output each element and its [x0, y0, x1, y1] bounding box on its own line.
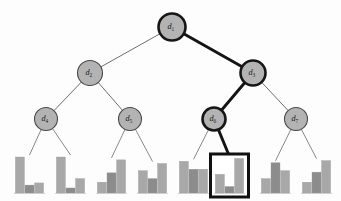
leaf-edge-d7-to-histogram-8 [301, 129, 316, 158]
histogram-5 [178, 161, 209, 193]
histogram-bar [107, 173, 116, 193]
histogram-bar [215, 174, 224, 193]
histogram-1 [14, 157, 45, 194]
node-circle-d1[interactable] [159, 14, 186, 41]
histogram-8 [301, 161, 332, 194]
tree-edge-d3-d6 [221, 83, 244, 111]
histogram-bar [261, 179, 270, 193]
leaf-edge-layer [30, 129, 317, 162]
histogram-bar [117, 160, 126, 193]
histogram-6 [211, 154, 249, 197]
histogram-bar [179, 161, 188, 193]
tree-histogram-figure: d1d2d3d4d5d6d7 [0, 0, 341, 201]
histogram-bar [15, 157, 24, 193]
node-circle-d2[interactable] [78, 61, 103, 86]
tree-node-d6[interactable]: d6 [203, 108, 226, 131]
histogram-bar [76, 179, 85, 193]
node-circle-d3[interactable] [241, 61, 266, 86]
histogram-bar [225, 187, 234, 193]
node-circle-d6[interactable] [203, 108, 226, 131]
histogram-bar [35, 183, 44, 193]
tree-node-d4[interactable]: d4 [35, 108, 58, 131]
histogram-bar [312, 172, 321, 193]
tree-edge-d2-d5 [98, 82, 122, 110]
histogram-bar [235, 158, 244, 193]
leaf-edge-d6-to-histogram-5 [194, 129, 209, 159]
tree-edge-d3-d7 [262, 82, 289, 110]
tree-node-d3[interactable]: d3 [241, 61, 266, 86]
histogram-3 [96, 160, 127, 194]
node-circle-d4[interactable] [35, 108, 58, 131]
tree-node-d7[interactable]: d7 [285, 108, 308, 131]
leaf-edge-d5-to-histogram-3 [112, 129, 126, 158]
leaf-edge-d6-to-histogram-6 [218, 130, 229, 157]
tree-node-d1[interactable]: d1 [159, 14, 186, 41]
node-circle-d5[interactable] [119, 108, 142, 131]
tree-edge-d2-d4 [54, 82, 81, 111]
histogram-bar [25, 185, 34, 193]
histogram-bar [148, 179, 157, 193]
tree-node-layer: d1d2d3d4d5d6d7 [35, 14, 308, 131]
leaf-edge-d5-to-histogram-4 [135, 129, 152, 161]
histogram-bar [158, 163, 167, 193]
tree-edge-d1-d3 [184, 34, 242, 67]
histogram-7 [260, 163, 291, 194]
histogram-bar [199, 169, 208, 193]
histogram-bar [281, 171, 290, 193]
histogram-layer [14, 154, 332, 197]
tree-node-d2[interactable]: d2 [78, 61, 103, 86]
tree-diagram-canvas: d1d2d3d4d5d6d7 [0, 0, 341, 201]
leaf-edge-d4-to-histogram-2 [52, 129, 70, 155]
histogram-bar [66, 188, 75, 193]
histogram-bar [97, 182, 106, 193]
tree-node-d5[interactable]: d5 [119, 108, 142, 131]
histogram-bar [138, 171, 147, 193]
histogram-4 [137, 163, 168, 193]
histogram-bar [302, 182, 311, 193]
histogram-bar [322, 161, 331, 193]
leaf-edge-d7-to-histogram-7 [276, 129, 291, 160]
leaf-edge-d4-to-histogram-1 [30, 129, 42, 155]
histogram-bar [271, 163, 280, 193]
node-circle-d7[interactable] [285, 108, 308, 131]
histogram-bar [56, 157, 65, 193]
tree-edge-d1-d2 [101, 34, 160, 67]
histogram-2 [55, 157, 86, 194]
histogram-bar [189, 169, 198, 193]
